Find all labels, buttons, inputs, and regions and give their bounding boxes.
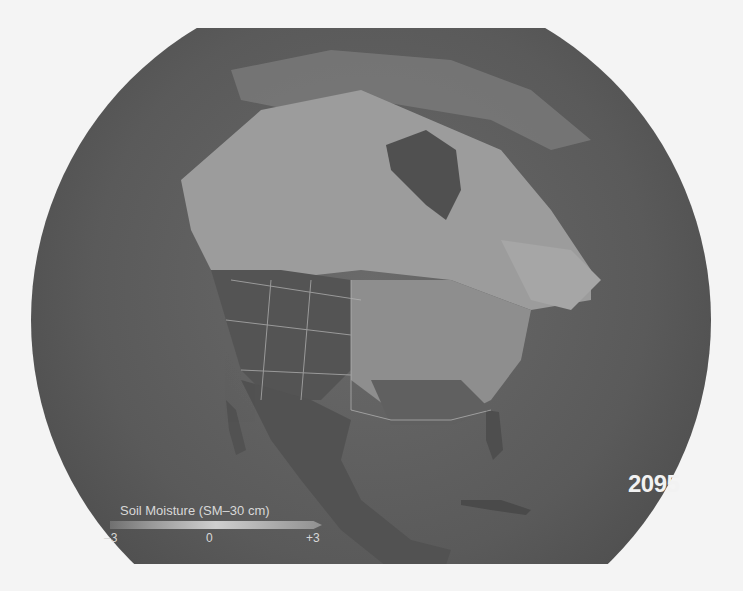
legend-max-label: +3 bbox=[306, 531, 320, 545]
legend-title: Soil Moisture (SM–30 cm) bbox=[120, 503, 335, 518]
year-label: 2095 bbox=[628, 470, 679, 498]
globe bbox=[31, 28, 711, 564]
legend-color-bar bbox=[110, 521, 322, 529]
legend-min-label: –3 bbox=[104, 531, 117, 545]
legend: Soil Moisture (SM–30 cm) –3 0 +3 bbox=[110, 503, 335, 545]
legend-ticks: –3 0 +3 bbox=[110, 531, 335, 545]
legend-mid-label: 0 bbox=[206, 531, 213, 545]
north-america-map bbox=[31, 28, 711, 564]
